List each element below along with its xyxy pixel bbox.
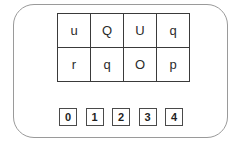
number-box-2[interactable]: 2 <box>112 108 130 126</box>
letter-cell-r1c1[interactable]: q <box>91 48 124 82</box>
number-box-1[interactable]: 1 <box>86 108 104 126</box>
number-box-0[interactable]: 0 <box>59 108 77 126</box>
number-strip: 0 1 2 3 4 <box>59 107 183 127</box>
letter-cell-r1c2[interactable]: O <box>124 48 157 82</box>
letter-grid: u Q U q r q O p <box>57 13 190 82</box>
letter-cell-r1c3[interactable]: p <box>157 48 190 82</box>
letter-cell-r0c2[interactable]: U <box>124 14 157 48</box>
number-box-4[interactable]: 4 <box>165 108 183 126</box>
letter-cell-r0c1[interactable]: Q <box>91 14 124 48</box>
letter-cell-r0c3[interactable]: q <box>157 14 190 48</box>
letter-grid-row: r q O p <box>58 48 190 82</box>
worksheet-canvas: u Q U q r q O p 0 1 2 3 4 <box>0 0 243 148</box>
letter-cell-r0c0[interactable]: u <box>58 14 91 48</box>
letter-cell-r1c0[interactable]: r <box>58 48 91 82</box>
letter-grid-row: u Q U q <box>58 14 190 48</box>
number-box-3[interactable]: 3 <box>139 108 157 126</box>
